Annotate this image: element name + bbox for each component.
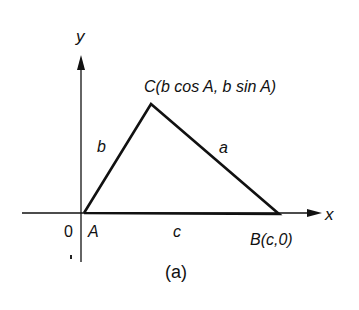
x-axis-arrow-icon xyxy=(307,209,322,217)
caption: (a) xyxy=(165,262,187,282)
side-c-label: c xyxy=(173,223,181,240)
side-b-label: b xyxy=(97,138,106,155)
vertex-b-label: B(c,0) xyxy=(250,231,293,248)
vertex-a-label: A xyxy=(87,223,99,240)
origin-label: 0 xyxy=(64,223,73,240)
y-axis-label: y xyxy=(75,27,86,46)
triangle-diagram: y x 0 A B(c,0) C(b cos A, b sin A) b a c… xyxy=(0,0,359,310)
y-axis-arrow-icon xyxy=(77,55,85,70)
stray-mark xyxy=(70,255,72,259)
vertex-c-label: C(b cos A, b sin A) xyxy=(144,78,276,95)
side-a-label: a xyxy=(219,139,228,156)
x-axis-label: x xyxy=(324,205,334,224)
triangle xyxy=(84,104,279,214)
